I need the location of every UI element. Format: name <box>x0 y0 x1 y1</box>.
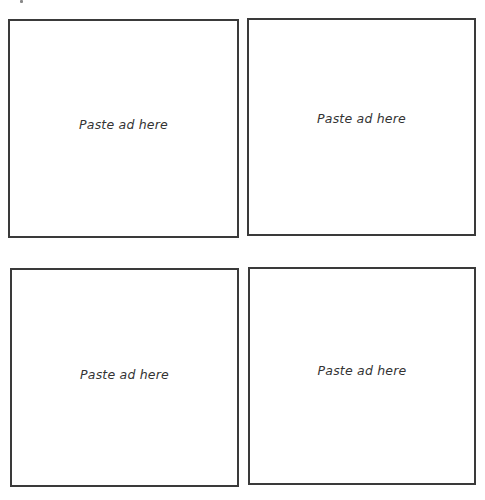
ad-slot-label: Paste ad here <box>10 117 237 132</box>
ad-slot-top-right[interactable]: Paste ad here <box>247 18 476 236</box>
stray-mark <box>20 0 23 3</box>
ad-slot-top-left[interactable]: Paste ad here <box>8 19 239 238</box>
ad-slot-label: Paste ad here <box>12 367 237 382</box>
ad-slot-label: Paste ad here <box>250 363 474 378</box>
ad-slot-bottom-right[interactable]: Paste ad here <box>248 267 476 485</box>
ad-slot-bottom-left[interactable]: Paste ad here <box>10 268 239 487</box>
ad-slot-label: Paste ad here <box>249 111 474 126</box>
